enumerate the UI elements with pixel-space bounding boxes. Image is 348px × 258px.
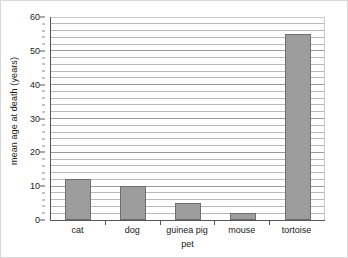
y-axis-tick-mark — [40, 118, 45, 119]
y-axis-tick-label: 0 — [35, 215, 40, 225]
bar — [120, 186, 146, 220]
plot-area — [50, 17, 325, 221]
y-axis-tick-label: 50 — [30, 46, 40, 56]
y-axis-tick-mark — [42, 30, 45, 31]
y-axis-tick-mark — [42, 111, 45, 112]
y-axis-tick-mark — [42, 192, 45, 193]
x-axis-tick-labels: catdogguinea pigmousetortoise — [50, 225, 325, 239]
y-axis-tick-label: 10 — [30, 181, 40, 191]
y-axis-tick-mark — [42, 145, 45, 146]
y-axis-tick-mark — [42, 206, 45, 207]
y-axis-tick-mark — [42, 213, 45, 214]
y-axis-tick-mark — [42, 172, 45, 173]
y-axis-tick-labels: 0102030405060 — [21, 13, 45, 221]
x-axis-tick-label: dog — [125, 225, 140, 235]
y-axis-tick-mark — [40, 220, 45, 221]
y-axis-tick-mark — [42, 64, 45, 65]
y-axis-tick-mark — [42, 91, 45, 92]
x-axis-tick-label: cat — [71, 225, 83, 235]
bar — [285, 34, 311, 220]
bar-series — [51, 17, 325, 220]
y-axis-tick-mark — [42, 98, 45, 99]
y-axis-tick-mark — [42, 199, 45, 200]
y-axis-tick-mark — [42, 37, 45, 38]
y-axis-tick-mark — [42, 159, 45, 160]
y-axis-tick-mark — [42, 23, 45, 24]
y-axis-title-text: mean age at death (years) — [9, 56, 19, 164]
y-axis-tick-mark — [42, 77, 45, 78]
y-axis-tick-mark — [42, 57, 45, 58]
x-axis-tick-label: mouse — [228, 225, 255, 235]
y-axis-tick-label: 20 — [30, 147, 40, 157]
y-axis-tick-mark — [42, 44, 45, 45]
x-axis-title: pet — [50, 239, 325, 249]
y-axis-tick-mark — [42, 138, 45, 139]
y-axis-tick-mark — [40, 84, 45, 85]
bar — [65, 179, 91, 220]
x-axis-tick-label: guinea pig — [166, 225, 208, 235]
bar — [175, 203, 201, 220]
y-axis-tick-mark — [40, 50, 45, 51]
y-axis-tick-mark — [42, 132, 45, 133]
y-axis-tick-mark — [42, 165, 45, 166]
y-axis-tick-mark — [40, 186, 45, 187]
y-axis-tick-mark — [40, 152, 45, 153]
bar — [230, 213, 256, 220]
y-axis-tick-label: 30 — [30, 114, 40, 124]
y-axis-tick-mark — [40, 17, 45, 18]
x-axis-tick-label: tortoise — [282, 225, 312, 235]
y-axis-tick-label: 60 — [30, 12, 40, 22]
y-axis-tick-mark — [42, 125, 45, 126]
y-axis-tick-mark — [42, 104, 45, 105]
y-axis-tick-label: 40 — [30, 80, 40, 90]
y-axis-tick-mark — [42, 179, 45, 180]
y-axis-tick-mark — [42, 71, 45, 72]
bar-chart-figure: mean age at death (years) 0102030405060 … — [0, 0, 348, 258]
